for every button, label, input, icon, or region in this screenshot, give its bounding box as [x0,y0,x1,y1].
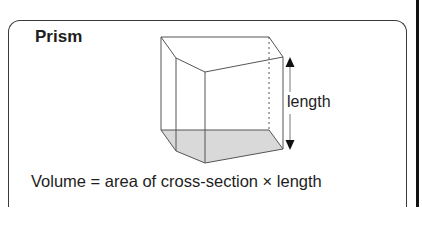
length-label: length [287,93,331,111]
prism-top-edges [161,37,283,72]
arrow-down-icon [286,140,295,150]
arrow-up-icon [286,57,295,67]
volume-formula: Volume = area of cross-section × length [31,172,322,191]
prism-base-face [161,130,283,163]
